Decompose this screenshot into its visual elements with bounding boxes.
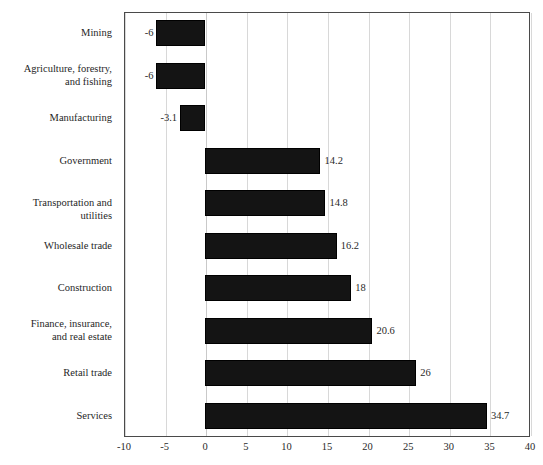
x-tick-label: 15 — [322, 441, 333, 452]
x-tick-label: 0 — [203, 441, 208, 452]
category-label: Manufacturing — [0, 112, 112, 125]
x-axis-tick-labels: -10-50510152025303540 — [124, 441, 530, 459]
bar[interactable] — [156, 63, 205, 89]
bar[interactable] — [205, 360, 416, 386]
x-tick-label: 30 — [444, 441, 455, 452]
bar-row: 14.8 — [124, 190, 530, 216]
category-label: Mining — [0, 27, 112, 40]
x-tick-label: -10 — [117, 441, 131, 452]
chart-title — [0, 0, 543, 3]
bar-row: 14.2 — [124, 148, 530, 174]
bars-layer: -6-6-3.114.214.816.21820.62634.7 — [124, 12, 530, 437]
x-tick-label: 25 — [403, 441, 414, 452]
bar-row: 18 — [124, 275, 530, 301]
bar-value-label: 26 — [420, 360, 431, 386]
category-axis-labels: MiningAgriculture, forestry, and fishing… — [0, 12, 118, 437]
bar-chart: MiningAgriculture, forestry, and fishing… — [0, 0, 543, 465]
category-label: Finance, insurance, and real estate — [0, 318, 112, 343]
bar[interactable] — [205, 275, 351, 301]
bar-value-label: -6 — [145, 20, 154, 46]
bar[interactable] — [180, 105, 205, 131]
bar[interactable] — [205, 403, 487, 429]
bar-value-label: -6 — [145, 63, 154, 89]
bar-value-label: -3.1 — [160, 105, 177, 131]
bar-row: 20.6 — [124, 318, 530, 344]
bar-row: -6 — [124, 20, 530, 46]
category-label: Retail trade — [0, 367, 112, 380]
bar[interactable] — [156, 20, 205, 46]
category-label: Transportation and utilities — [0, 197, 112, 222]
gridline-40 — [531, 13, 532, 436]
x-tick-label: 5 — [243, 441, 248, 452]
bar-row: -6 — [124, 63, 530, 89]
x-tick-label: 10 — [281, 441, 292, 452]
category-label: Wholesale trade — [0, 240, 112, 253]
bar-value-label: 14.2 — [325, 148, 343, 174]
bar[interactable] — [205, 190, 325, 216]
category-label: Construction — [0, 282, 112, 295]
category-label: Services — [0, 410, 112, 423]
bar-value-label: 18 — [355, 275, 366, 301]
bar-row: 26 — [124, 360, 530, 386]
category-label: Government — [0, 155, 112, 168]
bar-value-label: 20.6 — [376, 318, 394, 344]
bar[interactable] — [205, 148, 320, 174]
bar[interactable] — [205, 318, 372, 344]
bar-value-label: 14.8 — [329, 190, 347, 216]
category-label: Agriculture, forestry, and fishing — [0, 63, 112, 88]
x-tick-label: 40 — [525, 441, 536, 452]
x-tick-label: 20 — [362, 441, 373, 452]
bar[interactable] — [205, 233, 337, 259]
x-tick-label: 35 — [484, 441, 495, 452]
bar-row: 34.7 — [124, 403, 530, 429]
bar-row: 16.2 — [124, 233, 530, 259]
bar-row: -3.1 — [124, 105, 530, 131]
bar-value-label: 34.7 — [491, 403, 509, 429]
bar-value-label: 16.2 — [341, 233, 359, 259]
x-tick-label: -5 — [160, 441, 169, 452]
